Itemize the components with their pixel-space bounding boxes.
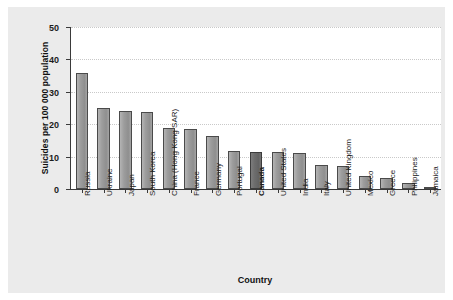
x-axis-title: Country bbox=[70, 275, 440, 285]
plot-area: 01020304050 bbox=[70, 27, 441, 190]
y-tick-label: 50 bbox=[49, 24, 59, 33]
x-tick-label: Germany bbox=[215, 163, 223, 196]
x-tick-label: Philippines bbox=[411, 157, 419, 196]
y-tick-mark: 30 bbox=[66, 92, 71, 93]
y-tick-mark: 50 bbox=[66, 27, 71, 28]
y-tick-mark: 0 bbox=[66, 189, 71, 190]
x-tick-label: France bbox=[193, 171, 201, 196]
x-tick-label: United Kingdom bbox=[345, 139, 353, 196]
x-tick-label: South Korea bbox=[149, 152, 157, 196]
figure-panel: Suicides per 100 000 population 01020304… bbox=[8, 7, 445, 293]
gridline bbox=[71, 92, 441, 93]
x-tick-label: Japan bbox=[128, 174, 136, 196]
x-tick-label: Mexico bbox=[367, 171, 375, 196]
x-tick-label: United States bbox=[280, 148, 288, 196]
y-tick-label: 0 bbox=[54, 186, 59, 195]
y-tick-label: 40 bbox=[49, 56, 59, 65]
gridline bbox=[71, 59, 441, 60]
y-tick-mark: 20 bbox=[66, 124, 71, 125]
x-tick-label: China (Hong Kong SAR) bbox=[171, 109, 179, 196]
figure: Suicides per 100 000 population 01020304… bbox=[0, 0, 453, 300]
y-axis-title: Suicides per 100 000 population bbox=[38, 27, 52, 189]
y-tick-label: 10 bbox=[49, 153, 59, 162]
x-tick-label: Portugal bbox=[236, 166, 244, 196]
x-tick-label: Russia bbox=[84, 172, 92, 196]
y-tick-label: 20 bbox=[49, 121, 59, 130]
x-tick-label: Italy bbox=[323, 181, 331, 196]
y-tick-mark: 10 bbox=[66, 157, 71, 158]
x-tick-label: Greece bbox=[389, 170, 397, 196]
gridline bbox=[71, 27, 441, 28]
x-tick-label: Ukraine bbox=[106, 168, 114, 196]
y-tick-label: 30 bbox=[49, 88, 59, 97]
x-tick-label: Jamaica bbox=[432, 166, 440, 196]
x-tick-label: India bbox=[302, 179, 310, 196]
x-tick-label: Canada bbox=[258, 167, 266, 196]
y-tick-mark: 40 bbox=[66, 59, 71, 60]
